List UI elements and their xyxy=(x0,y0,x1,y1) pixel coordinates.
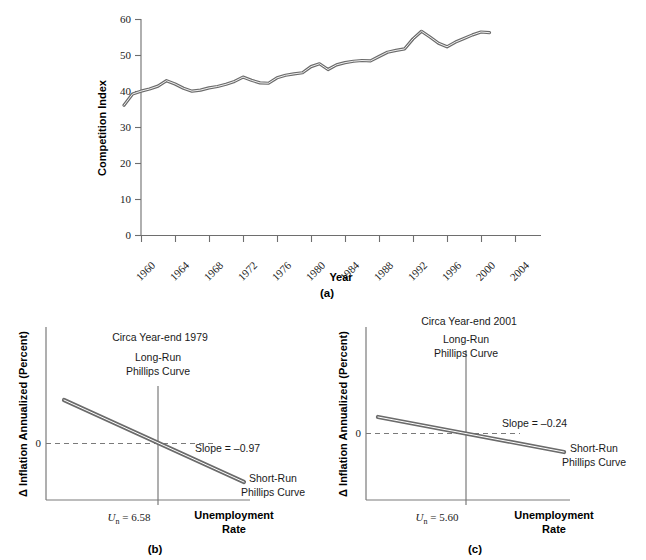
x-tick-label: 1976 xyxy=(269,259,293,283)
panel-c-y-axis-title: Δ Inflation Annualized (Percent) xyxy=(337,331,349,497)
panel-c-x-axis-title-line1: Unemployment xyxy=(514,509,594,521)
y-tick-label: 20 xyxy=(120,157,132,169)
panel-b-slope-label: Slope = –0.97 xyxy=(195,442,260,454)
panel-a-y-axis-title: Competition Index xyxy=(96,79,108,176)
x-tick-label: 1980 xyxy=(303,259,327,283)
panel-b-zero-label: 0 xyxy=(36,437,42,449)
panel-c-slope-label: Slope = –0.24 xyxy=(502,417,567,429)
x-tick-label: 1960 xyxy=(133,259,157,283)
panel-b-x-axis-title-line1: Unemployment xyxy=(194,509,274,521)
panel-c: Circa Year-end 2001 Long-Run Phillips Cu… xyxy=(337,315,626,555)
panel-c-srpc-label-line2: Phillips Curve xyxy=(562,456,626,468)
panel-b-srpc-label-line1: Short-Run xyxy=(249,472,297,484)
figure-container: 60 50 40 30 20 10 0 xyxy=(0,0,646,560)
x-tick-label: 1992 xyxy=(405,259,429,283)
competition-index-line xyxy=(124,31,490,105)
panel-c-lrpc-label-line2: Phillips Curve xyxy=(434,347,498,359)
panel-b-circa-label: Circa Year-end 1979 xyxy=(112,331,208,343)
panel-a-x-ticks xyxy=(142,236,516,243)
x-tick-label: 1996 xyxy=(439,259,463,283)
panel-c-circa-label: Circa Year-end 2001 xyxy=(421,315,517,327)
panel-a-y-tick-labels: 60 50 40 30 20 10 0 xyxy=(120,13,132,241)
y-tick-label: 60 xyxy=(120,13,132,25)
panel-a-x-axis-title: Year xyxy=(329,271,353,283)
panel-b-x-axis-title-line2: Rate xyxy=(222,523,246,535)
panel-c-lrpc-label-line1: Long-Run xyxy=(443,333,489,345)
panel-a: 60 50 40 30 20 10 0 xyxy=(96,13,541,299)
y-tick-label: 10 xyxy=(120,193,132,205)
svg-text:Un = 6.58: Un = 6.58 xyxy=(108,511,151,526)
x-tick-label: 2004 xyxy=(507,259,531,283)
x-tick-label: 1988 xyxy=(371,259,395,283)
panel-c-un-value: = 5.60 xyxy=(427,511,458,523)
x-tick-label: 2000 xyxy=(473,259,497,283)
panel-b-un-value: = 6.58 xyxy=(119,511,150,523)
panel-b-natural-rate-label: Un = 6.58 xyxy=(108,511,151,526)
panel-b: Circa Year-end 1979 Long-Run Phillips Cu… xyxy=(17,327,305,555)
panel-b-lrpc-label-line2: Phillips Curve xyxy=(126,365,190,377)
panel-c-zero-label: 0 xyxy=(356,427,362,439)
svg-text:Un = 5.60: Un = 5.60 xyxy=(416,511,459,526)
x-tick-label: 1972 xyxy=(235,259,259,283)
y-tick-label: 30 xyxy=(120,121,132,133)
y-tick-label: 0 xyxy=(126,229,132,241)
x-tick-label: 1964 xyxy=(167,259,191,283)
panel-b-caption: (b) xyxy=(148,543,163,555)
panel-b-lrpc-label-line1: Long-Run xyxy=(135,351,181,363)
panel-c-caption: (c) xyxy=(468,543,482,555)
x-tick-label: 1968 xyxy=(201,259,225,283)
y-tick-label: 50 xyxy=(120,49,132,61)
panel-a-y-ticks xyxy=(135,20,141,236)
panel-c-x-axis-title-line2: Rate xyxy=(542,523,566,535)
figure-svg: 60 50 40 30 20 10 0 xyxy=(0,0,646,560)
panel-b-short-run-phillips-curve-highlight xyxy=(64,400,244,482)
panel-c-natural-rate-label: Un = 5.60 xyxy=(416,511,459,526)
panel-a-caption: (a) xyxy=(320,287,334,299)
panel-b-srpc-label-line2: Phillips Curve xyxy=(241,486,305,498)
panel-b-y-axis-title: Δ Inflation Annualized (Percent) xyxy=(17,331,29,497)
panel-c-srpc-label-line1: Short-Run xyxy=(570,442,618,454)
